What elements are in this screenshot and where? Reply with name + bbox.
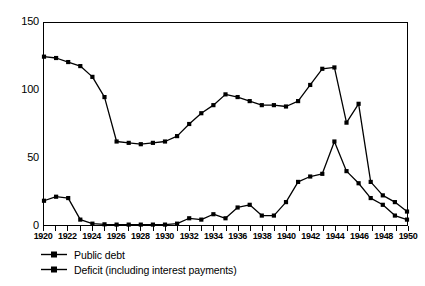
data-point-marker	[199, 111, 203, 115]
x-tick-label: 1940	[273, 231, 299, 242]
y-tick-label: 50	[5, 152, 39, 163]
data-point-marker	[248, 203, 252, 207]
data-point-marker	[357, 181, 361, 185]
data-point-marker	[102, 95, 106, 99]
chart-legend: Public debt Deficit (including interest …	[40, 247, 380, 277]
data-point-marker	[405, 209, 409, 213]
data-point-marker	[308, 83, 312, 87]
data-point-marker	[163, 139, 167, 143]
data-point-marker	[223, 216, 227, 220]
data-point-marker	[139, 142, 143, 146]
data-point-marker	[284, 200, 288, 204]
x-tick-label: 1950	[395, 231, 421, 242]
x-tick-label: 1938	[249, 231, 275, 242]
y-tick-label: 100	[5, 84, 39, 95]
y-tick-label: 0	[5, 220, 39, 231]
y-tick-label: 150	[5, 16, 39, 27]
x-tick-label: 1924	[79, 231, 105, 242]
plot-area	[43, 22, 408, 226]
data-point-marker	[296, 99, 300, 103]
data-point-marker	[42, 55, 46, 59]
data-point-marker	[260, 213, 264, 217]
x-tick-label: 1948	[371, 231, 397, 242]
legend-label-public-debt: Public debt	[74, 249, 125, 261]
data-point-marker	[248, 99, 252, 103]
series-line	[44, 57, 407, 212]
data-point-marker	[187, 122, 191, 126]
x-tick-label: 1936	[225, 231, 251, 242]
data-point-marker	[393, 200, 397, 204]
data-point-marker	[405, 218, 409, 222]
legend-label-deficit: Deficit (including interest payments)	[74, 264, 237, 276]
data-point-marker	[54, 195, 58, 199]
data-point-marker	[151, 141, 155, 145]
data-point-marker	[211, 212, 215, 216]
data-point-marker	[199, 218, 203, 222]
data-point-marker	[175, 134, 179, 138]
data-point-marker	[272, 213, 276, 217]
data-point-marker	[115, 139, 119, 143]
chart-lines	[44, 23, 407, 225]
data-point-marker	[187, 216, 191, 220]
x-tick-label: 1934	[200, 231, 226, 242]
data-point-marker	[42, 199, 46, 203]
data-point-marker	[393, 213, 397, 217]
data-point-marker	[381, 193, 385, 197]
x-tick-label: 1920	[30, 231, 56, 242]
data-point-marker	[284, 104, 288, 108]
data-point-marker	[369, 180, 373, 184]
x-axis: 1920192219241926192819301932193419361938…	[43, 231, 408, 244]
x-tick-label: 1942	[298, 231, 324, 242]
data-point-marker	[357, 102, 361, 106]
y-axis: 050100150	[0, 0, 39, 286]
data-point-marker	[296, 180, 300, 184]
data-point-marker	[236, 95, 240, 99]
data-point-marker	[369, 196, 373, 200]
series-line	[44, 142, 407, 225]
data-point-marker	[78, 64, 82, 68]
data-point-marker	[127, 141, 131, 145]
legend-item-public-debt: Public debt	[40, 247, 380, 262]
data-point-marker	[332, 65, 336, 69]
data-point-marker	[332, 139, 336, 143]
data-point-marker	[90, 75, 94, 79]
data-point-marker	[260, 103, 264, 107]
data-point-marker	[344, 169, 348, 173]
data-point-marker	[211, 103, 215, 107]
data-point-marker	[308, 174, 312, 178]
x-tick-label: 1928	[127, 231, 153, 242]
x-tick-label: 1922	[54, 231, 80, 242]
legend-item-deficit: Deficit (including interest payments)	[40, 262, 380, 277]
legend-marker-square-line-icon	[40, 264, 68, 275]
data-point-marker	[381, 203, 385, 207]
x-tick-label: 1932	[176, 231, 202, 242]
data-point-marker	[78, 218, 82, 222]
data-point-marker	[272, 103, 276, 107]
data-point-marker	[344, 121, 348, 125]
data-point-marker	[66, 196, 70, 200]
data-point-marker	[236, 205, 240, 209]
data-point-marker	[66, 60, 70, 64]
chart-root: 050100150 192019221924192619281930193219…	[0, 0, 425, 286]
x-tick-label: 1944	[322, 231, 348, 242]
x-tick-label: 1926	[103, 231, 129, 242]
x-tick-label: 1946	[346, 231, 372, 242]
data-point-marker	[223, 92, 227, 96]
data-point-marker	[54, 56, 58, 60]
legend-marker-square-line-icon	[40, 249, 68, 260]
x-tick-label: 1930	[152, 231, 178, 242]
data-point-marker	[320, 172, 324, 176]
data-point-marker	[320, 67, 324, 71]
